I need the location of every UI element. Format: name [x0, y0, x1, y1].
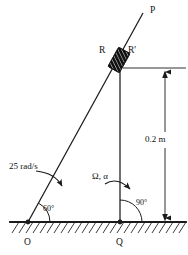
rotation-arrow-rod-qr	[105, 181, 130, 189]
label-point-q: Q	[116, 237, 123, 247]
label-angle-60: 60°	[43, 204, 54, 213]
label-dimension-height: 0.2 m	[145, 134, 166, 144]
label-angle-90: 90°	[136, 198, 147, 207]
pivot-q	[118, 220, 123, 225]
dimension-arrowhead-top	[162, 71, 168, 79]
label-collar-r: R	[99, 45, 106, 55]
label-point-p: P	[150, 5, 155, 15]
ground-hatching	[12, 222, 186, 233]
figure-canvas: P O Q R R' 25 rad/s Ω, α 60° 90° 0.2 m	[0, 0, 188, 255]
rod-op	[28, 13, 143, 222]
label-omega-alpha: Ω, α	[92, 171, 108, 181]
label-collar-r-prime: R'	[128, 45, 136, 55]
dimension-label-group: 0.2 m	[143, 132, 185, 148]
label-angular-velocity: 25 rad/s	[9, 161, 38, 171]
pivot-o	[26, 220, 31, 225]
mechanism-diagram: P O Q R R' 25 rad/s Ω, α 60° 90° 0.2 m	[0, 0, 188, 255]
ground-group	[10, 222, 186, 233]
label-point-o: O	[24, 237, 31, 247]
collar-block	[108, 47, 130, 73]
dimension-arrowhead-bottom	[162, 214, 168, 222]
